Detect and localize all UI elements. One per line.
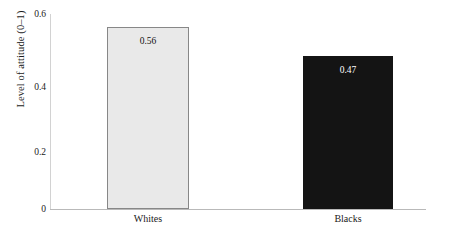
bar-chart: Level of attitude (0–1) 0.6 0.4 0.2 0 0.… bbox=[0, 0, 450, 232]
y-tick-label-0: 0 bbox=[18, 204, 46, 214]
y-tick-label-0.4: 0.4 bbox=[18, 82, 46, 92]
plot-area: 0.56 0.47 bbox=[51, 14, 426, 209]
bar-whites[interactable]: 0.56 bbox=[107, 27, 189, 209]
bar-blacks[interactable]: 0.47 bbox=[303, 56, 393, 209]
category-label-blacks: Blacks bbox=[288, 212, 408, 226]
bar-value-whites: 0.56 bbox=[108, 36, 188, 47]
x-axis-category-labels: Whites Blacks bbox=[51, 212, 426, 232]
y-tick-label-0.6: 0.6 bbox=[18, 9, 46, 19]
category-label-whites: Whites bbox=[88, 212, 208, 226]
x-axis-line bbox=[50, 209, 426, 210]
y-tick-label-0.2: 0.2 bbox=[18, 147, 46, 157]
bar-value-blacks: 0.47 bbox=[304, 65, 392, 76]
y-axis-tick-labels: 0.6 0.4 0.2 0 bbox=[14, 0, 46, 232]
